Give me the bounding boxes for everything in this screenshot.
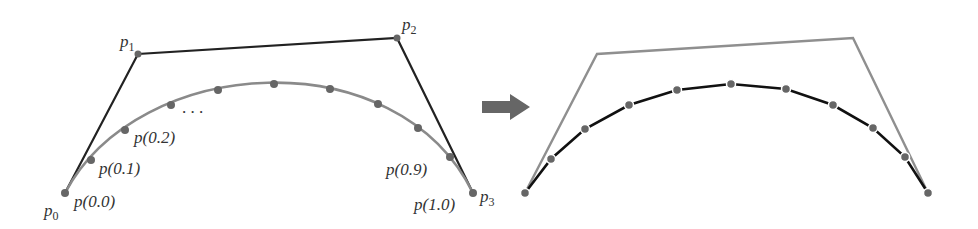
label-p2: p2 [401,15,417,37]
label-p-0-1: p(0.1) [98,159,140,178]
label-p-0-2: p(0.2) [133,128,175,147]
label-p-0-0: p(0.0) [73,192,115,211]
right-sample-points [521,80,933,198]
control-point-p2 [394,35,401,42]
label-p3: p3 [479,187,495,209]
control-point-p1 [135,51,142,58]
label-p1: p1 [119,32,135,54]
right-control-polygon [525,38,928,193]
label-p-0-9: p(0.9) [385,160,427,179]
arrow-right-icon [482,94,530,120]
right-line-segments [525,84,928,193]
left-sample-points [61,80,477,197]
bezier-diagram: p0 p1 p2 p3 p(0.0) p(0.1) p(0.2) . . . p… [0,0,978,229]
label-p-1-0: p(1.0) [413,195,455,214]
label-p0: p0 [43,201,59,223]
label-ellipsis: . . . [182,98,203,117]
